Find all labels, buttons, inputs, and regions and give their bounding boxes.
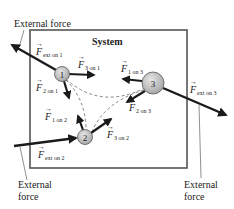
arrow-1-on-2	[78, 116, 83, 130]
external-force-label-top-left: External force	[14, 19, 71, 29]
arrow-2-on-1	[64, 81, 69, 98]
arrow-1-on-3	[123, 79, 142, 81]
interaction-1-2	[66, 80, 86, 130]
leader-bottom-left	[20, 147, 27, 180]
particle-2: 2	[78, 130, 93, 145]
external-force-label-bottom-left-line2: force	[18, 192, 39, 202]
system-forces-diagram: 1 2 3	[0, 0, 234, 209]
particle-1-label: 1	[60, 70, 65, 80]
external-force-label-bottom-right-line1: External	[184, 180, 218, 190]
external-force-label-bottom-left-line1: External	[18, 180, 52, 190]
label-f-ext-on-2: Fext on 2	[38, 150, 64, 161]
particle-3: 3	[142, 72, 164, 94]
arrow-3-on-1	[68, 74, 94, 75]
label-f-ext-on-1: Fext on 1	[36, 47, 62, 58]
system-title: System	[92, 37, 123, 47]
label-f-2-on-3: F2 on 3	[129, 103, 151, 114]
label-f-3-on-1: F3 on 1	[78, 60, 100, 71]
label-f-2-on-1: F2 on 1	[36, 83, 58, 94]
label-f-3-on-2: F3 on 2	[107, 130, 129, 141]
leader-top-left	[20, 30, 24, 44]
arrow-ext-on-2	[14, 138, 76, 146]
label-f-ext-on-3: Fext on 3	[190, 85, 216, 96]
particle-2-label: 2	[83, 133, 88, 143]
external-force-label-bottom-right-line2: force	[184, 192, 205, 202]
particle-1: 1	[55, 67, 70, 82]
label-f-1-on-2: F1 on 2	[45, 112, 67, 123]
leader-bottom-right	[199, 105, 201, 178]
interaction-1-3	[66, 79, 145, 97]
label-f-1-on-3: F1 on 3	[121, 64, 143, 75]
particle-3-label: 3	[151, 79, 156, 89]
